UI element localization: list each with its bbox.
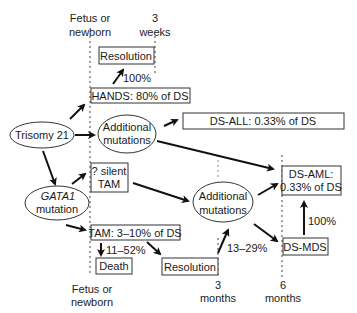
axis-bottom-6months-line2: months [265, 292, 302, 304]
additional-mutations-bottom-node [193, 182, 253, 222]
ds-mds-label: DS-MDS [283, 241, 326, 253]
axis-bottom-3months-line1: 3 [215, 279, 221, 291]
arrow-tam-to-resolution [147, 242, 160, 254]
resolution-bottom-label: Resolution [164, 261, 216, 273]
axis-bottom-3months-line2: months [200, 292, 237, 304]
additional-bottom-line1: Additional [199, 190, 247, 202]
additional-top-line2: mutations [103, 134, 151, 146]
arrow-hands-to-resolution [113, 70, 123, 84]
trisomy-21-label: Trisomy 21 [15, 129, 69, 141]
silent-tam-line2: TAM [98, 178, 120, 190]
edge-label-death-pct: 11–52% [106, 244, 146, 256]
axis-bottom-6months-line1: 6 [280, 279, 286, 291]
arrow-trisomy-to-hands [70, 105, 84, 119]
resolution-top-label: Resolution [100, 50, 152, 62]
arrow-silent-tam-to-additional [133, 183, 188, 201]
edge-label-100-right: 100% [308, 215, 336, 227]
axis-top-fetus-line1: Fetus or [70, 12, 111, 24]
additional-top-line1: Additional [103, 121, 151, 133]
arrow-gata1-to-silent-tam [72, 174, 85, 184]
arrow-additional-to-ds-aml [157, 141, 273, 169]
edge-label-100-top: 100% [123, 72, 151, 84]
axis-bottom-fetus-line1: Fetus or [72, 283, 113, 295]
arrow-additional-to-ds-all [164, 120, 177, 126]
additional-bottom-line2: mutations [199, 204, 247, 216]
ds-all-label: DS-ALL: 0.33% of DS [210, 115, 316, 127]
ds-aml-line2: 0.33% of DS [280, 181, 342, 193]
gata1-label-line1: GATA1 [41, 190, 75, 202]
arrow-additional-to-ds-mds [254, 224, 277, 241]
tam-label: TAM: 3–10% of DS [88, 227, 181, 239]
down-syndrome-leukemia-diagram: Fetus or newborn 3 weeks Fetus or newbor… [0, 0, 357, 313]
axis-top-3weeks-line1: 3 [152, 12, 158, 24]
axis-bottom-fetus-line2: newborn [71, 296, 113, 308]
arrow-gata1-to-tam [66, 225, 85, 230]
silent-tam-line1: ? silent [92, 165, 127, 177]
edge-label-relapse-pct: 13–29% [227, 242, 268, 254]
death-label: Death [99, 260, 128, 272]
axis-top-fetus-line2: newborn [69, 26, 111, 38]
arrow-additional-to-ds-aml-2 [258, 184, 277, 195]
gata1-label-line2: mutation [36, 203, 78, 215]
hands-label: HANDS: 80% of DS [91, 90, 188, 102]
axis-top-3weeks-line2: weeks [138, 26, 171, 38]
ds-aml-line1: DS-AML: [289, 168, 334, 180]
arrow-trisomy-to-gata1 [43, 151, 55, 184]
